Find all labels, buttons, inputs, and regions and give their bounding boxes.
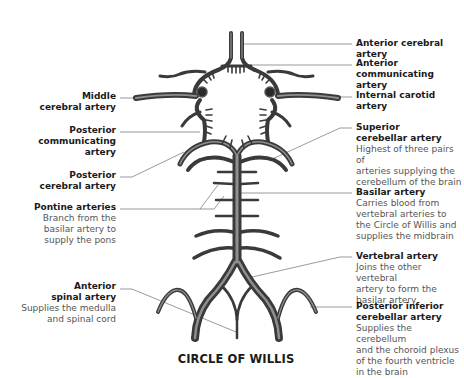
label-title: Middle cerebral artery bbox=[40, 91, 116, 113]
label-title: Posterior inferior cerebellar artery bbox=[356, 301, 464, 323]
label-posterior-inferior-cerebellar-artery: Posterior inferior cerebellar artery Sup… bbox=[356, 301, 464, 378]
label-description: Supplies the medulla and spinal cord bbox=[21, 303, 116, 325]
label-title: Internal carotid artery bbox=[356, 90, 435, 112]
internal-carotid-right-section bbox=[265, 87, 275, 97]
internal-carotid-left-section bbox=[197, 87, 207, 97]
label-description: Branch from the basilar artery to supply… bbox=[34, 213, 116, 246]
vessel-anterior-spinal-right bbox=[237, 286, 252, 320]
label-anterior-cerebral-artery: Anterior cerebral artery bbox=[356, 38, 464, 60]
label-posterior-cerebral-artery: Posterior cerebral artery bbox=[40, 170, 116, 192]
leader-pontine bbox=[120, 185, 218, 209]
vessel-superior-cerebellar-right bbox=[240, 157, 286, 170]
label-title: Pontine arteries bbox=[34, 202, 116, 213]
label-title: Posterior communicating artery bbox=[38, 125, 116, 158]
label-basilar-artery: Basilar artery Carries blood from verteb… bbox=[356, 187, 457, 242]
label-vertebral-artery: Vertebral artery Joins the other vertebr… bbox=[356, 251, 464, 306]
label-pontine-arteries: Pontine arteries Branch from the basilar… bbox=[34, 202, 116, 246]
label-posterior-communicating-artery: Posterior communicating artery bbox=[38, 125, 116, 158]
label-title: Anterior spinal artery bbox=[21, 281, 116, 303]
label-description: Supplies the cerebellum and the choroid … bbox=[356, 323, 464, 378]
diagram-title: CIRCLE OF WILLIS bbox=[0, 352, 464, 366]
label-description: Joins the other vertebral artery to form… bbox=[356, 262, 464, 306]
label-superior-cerebellar-artery: Superior cerebellar artery Highest of th… bbox=[356, 122, 464, 188]
label-internal-carotid-artery: Internal carotid artery bbox=[356, 90, 435, 112]
label-description: Highest of three pairs of arteries suppl… bbox=[356, 144, 464, 188]
label-title: Anterior cerebral artery bbox=[356, 38, 464, 60]
vessel-posterior-communicating-right bbox=[267, 100, 275, 142]
label-title: Anterior communicating artery bbox=[356, 58, 464, 91]
label-title: Basilar artery bbox=[356, 187, 457, 198]
label-title: Posterior cerebral artery bbox=[40, 170, 116, 192]
label-anterior-spinal-artery: Anterior spinal artery Supplies the medu… bbox=[21, 281, 116, 325]
leader-posterior-cerebral bbox=[120, 152, 184, 177]
vessel-pica-right bbox=[278, 290, 316, 318]
leader-pontine-2 bbox=[200, 196, 224, 209]
vessel-anterior-cerebral-left bbox=[218, 33, 231, 70]
label-middle-cerebral-artery: Middle cerebral artery bbox=[40, 91, 116, 113]
label-title: Superior cerebellar artery bbox=[356, 122, 464, 144]
vessel-superior-cerebellar-left bbox=[188, 157, 234, 170]
vessel-posterior-communicating-left bbox=[197, 100, 205, 142]
vessel-pica-left bbox=[158, 290, 196, 318]
leader-superior-cerebellar bbox=[270, 128, 352, 160]
label-anterior-communicating-artery: Anterior communicating artery bbox=[356, 58, 464, 91]
vessels bbox=[136, 33, 338, 338]
leader-anterior-spinal bbox=[120, 289, 236, 332]
label-description: Carries blood from vertebral arteries to… bbox=[356, 198, 457, 242]
vessel-anterior-cerebral-right bbox=[242, 33, 255, 70]
label-title: Vertebral artery bbox=[356, 251, 464, 262]
leader-vertebral bbox=[252, 257, 352, 277]
vessel-anterior-spinal-left bbox=[222, 286, 237, 320]
